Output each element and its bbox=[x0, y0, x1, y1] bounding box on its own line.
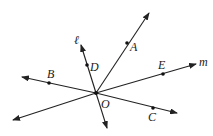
label-a: A bbox=[129, 40, 138, 54]
label-l: ℓ bbox=[74, 33, 79, 47]
label-m: m bbox=[199, 55, 208, 69]
label-d: D bbox=[89, 60, 99, 74]
point-a bbox=[125, 41, 129, 45]
ray-oa bbox=[96, 13, 149, 93]
point-o bbox=[94, 91, 98, 95]
label-o: O bbox=[101, 97, 110, 111]
point-b bbox=[47, 81, 51, 85]
line-m-left bbox=[13, 93, 96, 120]
label-b: B bbox=[47, 67, 55, 81]
line-bc-left bbox=[22, 77, 96, 93]
line-m bbox=[96, 64, 196, 93]
label-c: C bbox=[148, 110, 157, 124]
geometry-diagram: A B C D E O ℓ m bbox=[0, 0, 213, 136]
label-e: E bbox=[157, 58, 166, 72]
point-e bbox=[161, 72, 165, 76]
point-d bbox=[85, 63, 89, 67]
